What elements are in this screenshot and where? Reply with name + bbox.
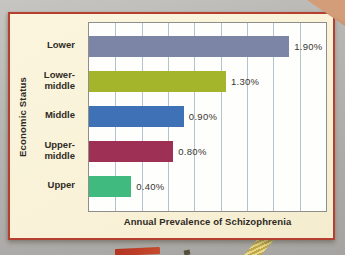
bar	[89, 141, 173, 162]
partial-text-mark	[184, 249, 191, 255]
y-tick-label: Middle	[12, 98, 86, 133]
bar-value-label: 1.30%	[231, 76, 259, 87]
bar-value-label: 1.90%	[294, 41, 322, 52]
bar-row: 0.90%	[89, 99, 326, 134]
y-tick-label: Lower- middle	[12, 63, 86, 98]
partial-drop-cap-letter	[115, 247, 160, 255]
plot-area: 1.90%1.30%0.90%0.80%0.40%	[88, 22, 327, 212]
bar-value-label: 0.80%	[178, 146, 206, 157]
y-tick-label: Lower	[12, 28, 86, 63]
y-axis-tick-labels: LowerLower- middleMiddleUpper- middleUpp…	[12, 22, 86, 212]
bar-value-label: 0.90%	[189, 111, 217, 122]
x-axis-title: Annual Prevalence of Schizophrenia	[88, 216, 327, 227]
y-tick-label: Upper- middle	[12, 133, 86, 168]
bar	[89, 106, 184, 127]
chart-panel: Economic Status LowerLower- middleMiddle…	[8, 12, 335, 240]
bar-row: 1.90%	[89, 29, 326, 64]
bar	[89, 71, 226, 92]
bar	[89, 36, 289, 57]
bar	[89, 176, 131, 197]
y-tick-label: Upper	[12, 168, 86, 203]
bar-row: 0.80%	[89, 134, 326, 169]
bar-row: 0.40%	[89, 169, 326, 204]
bar-row: 1.30%	[89, 64, 326, 99]
bar-value-label: 0.40%	[136, 181, 164, 192]
